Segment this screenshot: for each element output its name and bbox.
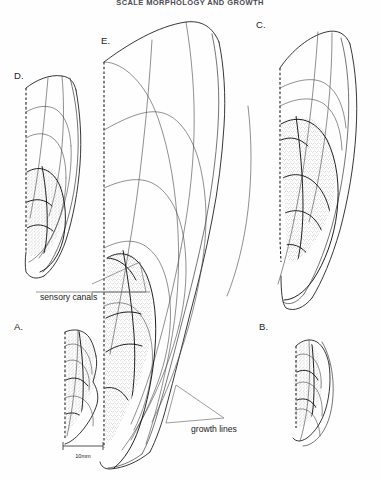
scale-bar-label: 10mm xyxy=(75,453,91,459)
specimen-d-growth-line xyxy=(26,106,71,146)
specimen-e-growth-line xyxy=(181,22,194,248)
specimen-a-stipple xyxy=(60,326,104,442)
specimen-c-stipple xyxy=(276,110,342,268)
specimen-c: C. xyxy=(227,19,357,310)
specimen-c-growth-line-left xyxy=(227,106,251,296)
specimen-c-rim-bottom xyxy=(283,294,304,304)
specimen-e-growth-line xyxy=(128,40,152,254)
panel-letter-e: E. xyxy=(101,35,110,46)
figure-plate: SCALE MORPHOLOGY AND GROWTH xyxy=(0,0,381,481)
specimen-c-broken-margin xyxy=(280,68,281,262)
scale-bar: 10mm xyxy=(63,442,103,459)
specimen-e-outline-top xyxy=(104,22,219,62)
figure-title: SCALE MORPHOLOGY AND GROWTH xyxy=(116,0,263,7)
sensory-canals-label: sensory canals xyxy=(40,292,97,302)
panel-letter-a: A. xyxy=(14,321,23,332)
specimen-c-outline-bottom xyxy=(281,276,312,310)
specimen-c-outline-top xyxy=(280,31,350,68)
scale-morphology-figure: SCALE MORPHOLOGY AND GROWTH xyxy=(0,0,381,481)
specimen-b: B. xyxy=(259,321,333,446)
specimen-d-outline-top xyxy=(26,76,76,90)
panel-letter-c: C. xyxy=(256,19,266,30)
specimen-d: D. xyxy=(14,70,81,278)
scale-bar-line xyxy=(63,442,103,450)
growth-lines-label: growth lines xyxy=(191,424,237,434)
specimen-e: E. xyxy=(95,22,225,469)
specimen-a: A. xyxy=(14,321,104,444)
annotation-growth-lines: growth lines xyxy=(166,385,237,434)
specimen-e-outline-bottom xyxy=(100,452,150,469)
growth-lines-leader xyxy=(166,385,224,423)
panel-letter-d: D. xyxy=(14,70,24,81)
figure-title-text: SCALE MORPHOLOGY AND GROWTH xyxy=(116,0,263,7)
panel-letter-b: B. xyxy=(259,321,268,332)
